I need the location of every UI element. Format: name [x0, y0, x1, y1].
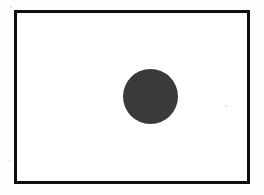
scan-speckle-artifact [9, 160, 11, 162]
scan-speckle-artifact [225, 105, 227, 107]
rectangle-border-frame [14, 10, 250, 184]
filled-circle-shape [123, 69, 178, 124]
scan-speckle-artifact [10, 6, 12, 8]
scanned-figure-page [0, 0, 264, 195]
